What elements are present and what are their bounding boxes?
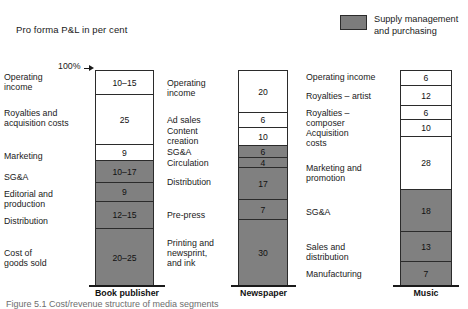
segment-value: 17	[258, 179, 268, 189]
segment-label-line: costs	[306, 138, 396, 148]
segment-label: SG&A	[306, 207, 396, 217]
segment-label: SG&A	[4, 172, 88, 182]
segment-value: 4	[261, 158, 266, 168]
bar-segment: 9	[96, 183, 153, 202]
legend: Supply management and purchasing	[340, 14, 458, 37]
axis-100-percent-arrow-icon	[89, 65, 94, 71]
segment-value: 7	[261, 205, 266, 215]
segment-label: Printing andnewsprint,and ink	[167, 238, 233, 269]
segment-label: Contentcreation	[167, 126, 233, 146]
figure-caption: Figure 5.1 Cost/revenue structure of med…	[6, 299, 219, 309]
segment-value: 13	[421, 242, 431, 252]
segment-label-line: Distribution	[4, 216, 88, 226]
baseline-rule	[89, 285, 165, 287]
category-label-newspaper: Newspaper	[231, 288, 296, 298]
segment-value: 20–25	[113, 253, 137, 263]
segment-label-line: newsprint,	[167, 248, 233, 258]
segment-label-line: SG&A	[4, 172, 88, 182]
segment-label-line: and ink	[167, 258, 233, 268]
bar-segment: 20	[239, 71, 287, 113]
segment-value: 12	[421, 91, 431, 101]
segment-value: 6	[261, 115, 266, 125]
segment-value: 28	[421, 158, 431, 168]
stacked-bar: 10–1525910–17912–1520–25	[95, 70, 154, 285]
segment-label-line: Manufacturing	[306, 269, 396, 279]
axis-100-percent-label: 100%	[58, 61, 81, 71]
baseline-rule	[231, 285, 296, 287]
segment-value: 10–17	[113, 167, 137, 177]
segment-label: Manufacturing	[306, 269, 396, 279]
segment-label: Distribution	[167, 177, 233, 187]
segment-label: Operatingincome	[4, 72, 88, 92]
bar-segment: 10	[239, 128, 287, 146]
legend-label-line2: and purchasing	[374, 26, 458, 38]
segment-label-line: Operating income	[306, 72, 396, 82]
bar-segment: 6	[239, 146, 287, 158]
segment-value: 9	[122, 187, 127, 197]
segment-label: Royalties –composer	[306, 108, 396, 128]
segment-label: Marketing	[4, 151, 88, 161]
legend-label-line1: Supply management	[374, 14, 458, 26]
baseline-rule	[393, 285, 459, 287]
segment-label: Pre-press	[167, 210, 233, 220]
bar-segment: 6	[239, 113, 287, 128]
segment-label: Acquisitioncosts	[306, 128, 396, 148]
category-label-music: Music	[393, 288, 459, 298]
bar-segment: 12	[401, 86, 451, 106]
segment-value: 6	[424, 108, 429, 118]
segment-label-line: Sales and	[306, 242, 396, 252]
segment-label-line: Circulation	[167, 158, 233, 168]
segment-label-line: Cost of	[4, 248, 88, 258]
segment-label-line: Content	[167, 126, 233, 136]
bar-segment: 10	[401, 120, 451, 137]
segment-label-line: Ad sales	[167, 115, 233, 125]
segment-value: 10–15	[113, 78, 137, 88]
segment-label-line: Pre-press	[167, 210, 233, 220]
segment-label-line: creation	[167, 136, 233, 146]
segment-label: Marketing andpromotion	[306, 163, 396, 183]
segment-label-line: Acquisition	[306, 128, 396, 138]
bar-segment: 28	[401, 137, 451, 190]
bar-segment: 6	[401, 71, 451, 86]
segment-label-line: Operating	[4, 72, 88, 82]
segment-label: Sales anddistribution	[306, 242, 396, 262]
stacked-bar: 6126102818137	[400, 70, 452, 285]
segment-label-line: SG&A	[167, 147, 233, 157]
segment-value: 12–15	[113, 210, 137, 220]
segment-label: Circulation	[167, 158, 233, 168]
segment-label: Ad sales	[167, 115, 233, 125]
segment-label-line: SG&A	[306, 207, 396, 217]
segment-label-line: production	[4, 199, 88, 209]
segment-label-line: Operating	[167, 78, 233, 88]
segment-label: Distribution	[4, 216, 88, 226]
segment-label-line: Printing and	[167, 238, 233, 248]
bar-segment: 9	[96, 145, 153, 161]
category-label-book-publisher: Book publisher	[89, 288, 165, 298]
segment-value: 18	[421, 206, 431, 216]
bar-segment: 4	[239, 158, 287, 168]
chart-title: Pro forma P&L in per cent	[16, 24, 127, 35]
segment-value: 10	[258, 132, 268, 142]
segment-label: Operating income	[306, 72, 396, 82]
bar-segment: 10–15	[96, 71, 153, 95]
segment-label: Editorial andproduction	[4, 189, 88, 209]
stacked-bar: 206106417730	[238, 70, 288, 285]
segment-label: SG&A	[167, 147, 233, 157]
segment-value: 10	[421, 123, 431, 133]
segment-value: 25	[120, 115, 130, 125]
segment-label-line: composer	[306, 118, 396, 128]
segment-label: Royalties andacquisition costs	[4, 108, 88, 128]
bar-segment: 7	[401, 262, 451, 286]
bar-segment: 17	[239, 168, 287, 200]
bar-segment: 25	[96, 95, 153, 145]
segment-label-line: promotion	[306, 173, 396, 183]
segment-label: Royalties – artist	[306, 91, 396, 101]
segment-label: Operatingincome	[167, 78, 233, 98]
segment-label-line: acquisition costs	[4, 118, 88, 128]
segment-value: 30	[258, 248, 268, 258]
legend-swatch-supply-management	[340, 15, 367, 30]
segment-value: 6	[261, 147, 266, 157]
bar-segment: 6	[401, 106, 451, 120]
segment-value: 9	[122, 148, 127, 158]
